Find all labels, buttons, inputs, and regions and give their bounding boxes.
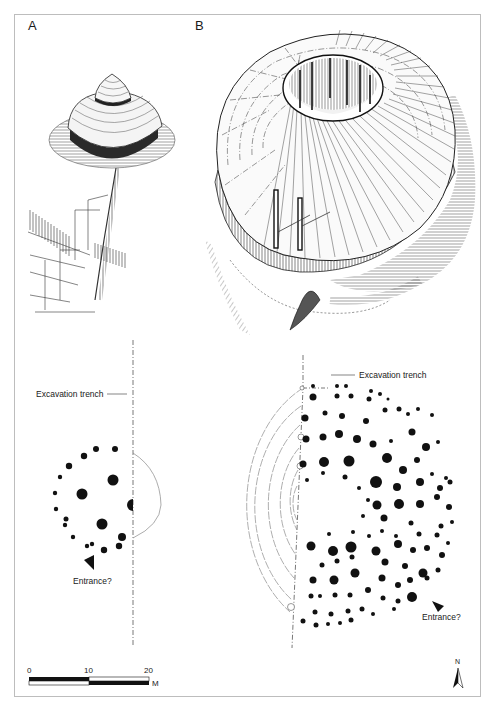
north-arrow-icon bbox=[453, 668, 463, 688]
illustration-canvas bbox=[0, 0, 495, 710]
roundhouse-a-illustration bbox=[28, 74, 175, 312]
north-label: N bbox=[455, 658, 460, 665]
scale-unit: M bbox=[152, 679, 159, 688]
plan-a bbox=[53, 340, 161, 645]
trench-label-right: Excavation trench bbox=[359, 370, 427, 380]
scale-tick-10: 10 bbox=[84, 666, 93, 675]
scale-tick-0: 0 bbox=[27, 666, 31, 675]
ring-building-b-illustration bbox=[205, 30, 475, 335]
plan-b bbox=[247, 355, 454, 648]
scale-tick-20: 20 bbox=[144, 666, 153, 675]
entrance-label-left: Entrance? bbox=[73, 576, 112, 586]
trench-label-left: Excavation trench bbox=[36, 389, 104, 399]
scale-bar-graphic bbox=[29, 677, 149, 685]
entrance-label-right: Entrance? bbox=[422, 612, 461, 622]
